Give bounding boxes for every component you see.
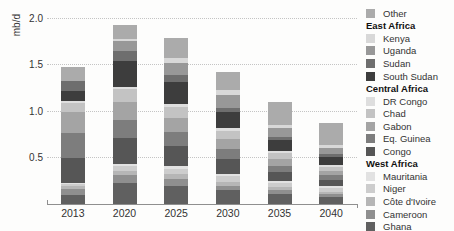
bar-slot-2040 <box>305 10 357 204</box>
legend-item-kenya: Kenya <box>366 32 438 45</box>
bar-2013 <box>61 67 85 204</box>
x-axis-right-tick <box>357 204 358 208</box>
bar-segment-chad-2013 <box>61 103 85 112</box>
legend-item-congo: Congo <box>366 145 438 158</box>
legend-swatch-sudan <box>366 59 375 68</box>
legend-label-c-te-d-ivoire: Côte d'Ivoire <box>383 196 436 207</box>
y-tick-label-2.0: 2.0 <box>13 13 43 24</box>
bar-segment-ghana-2035 <box>268 194 292 204</box>
bar-segment-congo-2013 <box>61 158 85 183</box>
bar-segment-other-2040 <box>319 123 343 145</box>
legend-label-niger: Niger <box>383 183 406 194</box>
bar-segment-other-2020 <box>113 25 137 39</box>
x-label-2035: 2035 <box>254 207 306 219</box>
bar-segment-uganda-2030 <box>216 95 240 108</box>
stacked-bar-chart-figure: mb/d 0.51.01.52.0 2013202020252030203520… <box>0 0 454 231</box>
bar-segment-eq-guinea-2013 <box>61 133 85 158</box>
x-axis-category-labels: 201320202025203020352040 <box>47 207 357 219</box>
bar-slot-2025 <box>150 10 202 204</box>
legend-item-eq-guinea: Eq. Guinea <box>366 132 438 145</box>
bar-slot-2013 <box>47 10 99 204</box>
legend-swatch-dr-congo <box>366 97 375 106</box>
legend-header-central-africa: Central Africa <box>366 82 438 95</box>
legend-item-south-sudan: South Sudan <box>366 70 438 83</box>
legend-label-south-sudan: South Sudan <box>383 71 438 82</box>
y-tick-label-1.0: 1.0 <box>13 106 43 117</box>
x-label-2020: 2020 <box>99 207 151 219</box>
bar-segment-congo-2020 <box>113 138 137 164</box>
legend-swatch-south-sudan <box>366 72 375 81</box>
legend-item-other: Other <box>366 7 438 20</box>
bar-segment-south-sudan-2025 <box>164 82 188 104</box>
y-tick-label-0.5: 0.5 <box>13 152 43 163</box>
bar-segment-south-sudan-2013 <box>61 91 85 101</box>
bar-segment-congo-2035 <box>268 172 292 181</box>
bar-segment-gabon-2013 <box>61 112 85 132</box>
legend-header-east-africa: East Africa <box>366 20 438 33</box>
legend-item-c-te-d-ivoire: Côte d'Ivoire <box>366 195 438 208</box>
bar-segment-ghana-2040 <box>319 197 343 204</box>
legend-label-other: Other <box>383 8 407 19</box>
bar-segment-south-sudan-2030 <box>216 112 240 128</box>
bar-2025 <box>164 38 188 204</box>
bar-segment-ghana-2013 <box>61 195 85 204</box>
legend-swatch-gabon <box>366 122 375 131</box>
legend-item-chad: Chad <box>366 107 438 120</box>
legend-label-gabon: Gabon <box>383 121 412 132</box>
bar-segment-chad-2020 <box>113 89 137 102</box>
legend-label-ghana: Ghana <box>383 221 412 231</box>
legend-item-mauritania: Mauritania <box>366 170 438 183</box>
bar-segment-other-2013 <box>61 67 85 81</box>
bars-container <box>47 10 357 204</box>
bar-segment-ghana-2020 <box>113 183 137 204</box>
legend-item-cameroon: Cameroon <box>366 208 438 221</box>
legend-swatch-uganda <box>366 46 375 55</box>
legend-label-kenya: Kenya <box>383 33 410 44</box>
legend-item-niger: Niger <box>366 183 438 196</box>
bar-segment-gabon-2020 <box>113 102 137 120</box>
legend: OtherEast AfricaKenyaUgandaSudanSouth Su… <box>366 7 438 231</box>
bar-2030 <box>216 72 240 204</box>
legend-swatch-eq-guinea <box>366 134 375 143</box>
legend-item-ghana: Ghana <box>366 220 438 231</box>
bar-segment-uganda-2035 <box>268 128 292 136</box>
bar-segment-other-2030 <box>216 72 240 91</box>
bar-segment-sudan-2013 <box>61 81 85 91</box>
bar-segment-uganda-2020 <box>113 41 137 51</box>
bar-segment-south-sudan-2020 <box>113 61 137 87</box>
bar-segment-ghana-2030 <box>216 190 240 204</box>
legend-item-dr-congo: DR Congo <box>366 95 438 108</box>
legend-label-mauritania: Mauritania <box>383 171 427 182</box>
x-label-2013: 2013 <box>47 207 99 219</box>
x-label-2025: 2025 <box>150 207 202 219</box>
legend-label-sudan: Sudan <box>383 58 410 69</box>
legend-header-west-africa: West Africa <box>366 158 438 171</box>
legend-swatch-niger <box>366 184 375 193</box>
bar-segment-sudan-2020 <box>113 51 137 60</box>
legend-swatch-ghana <box>366 222 375 231</box>
legend-label-chad: Chad <box>383 108 406 119</box>
bar-segment-gabon-2035 <box>268 159 292 166</box>
bar-segment-cameroon-2020 <box>113 175 137 182</box>
x-axis-line <box>47 204 358 205</box>
bar-segment-other-2035 <box>268 102 292 124</box>
x-axis-left-tick <box>47 200 48 204</box>
x-label-2040: 2040 <box>305 207 357 219</box>
bar-segment-other-2025 <box>164 38 188 58</box>
bar-segment-gabon-2025 <box>164 118 188 132</box>
bar-slot-2035 <box>254 10 306 204</box>
bar-segment-eq-guinea-2025 <box>164 132 188 146</box>
y-tick-label-1.5: 1.5 <box>13 59 43 70</box>
x-label-2030: 2030 <box>202 207 254 219</box>
bar-2035 <box>268 102 292 204</box>
legend-label-congo: Congo <box>383 146 411 157</box>
bar-segment-chad-2030 <box>216 131 240 139</box>
plot-area <box>47 10 357 204</box>
bar-segment-eq-guinea-2020 <box>113 120 137 139</box>
bar-segment-gabon-2030 <box>216 139 240 149</box>
legend-swatch-c-te-d-ivoire <box>366 197 375 206</box>
legend-label-dr-congo: DR Congo <box>383 96 427 107</box>
legend-swatch-congo <box>366 147 375 156</box>
legend-swatch-other <box>366 9 375 18</box>
legend-label-cameroon: Cameroon <box>383 209 427 220</box>
